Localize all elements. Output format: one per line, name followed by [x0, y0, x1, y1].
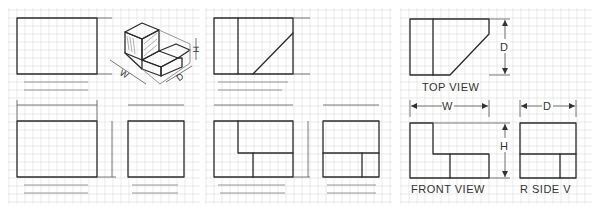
- front-width-dimension: W: [442, 100, 453, 112]
- side-view-partial: [323, 121, 379, 177]
- isometric-pictorial: W D H: [110, 23, 201, 84]
- panel-exercise-1: W D H: [17, 18, 201, 193]
- front-view-label: FRONT VIEW: [411, 183, 485, 195]
- orthographic-projection-sheet: W D H: [0, 0, 592, 211]
- top-depth-dimension: D: [500, 41, 508, 53]
- side-depth-dimension: D: [543, 100, 551, 112]
- iso-depth-label: D: [174, 71, 185, 83]
- front-height-dimension: H: [500, 140, 508, 152]
- iso-height-label: H: [191, 46, 201, 53]
- top-view-shape: [410, 19, 489, 75]
- panel-exercise-2: [214, 18, 379, 193]
- top-view-label: TOP VIEW: [422, 81, 480, 93]
- side-view-label: R SIDE V: [520, 183, 571, 195]
- panel-solution: D TOP VIEW W H FRONT VIEW D R SIDE V: [410, 19, 576, 195]
- side-view-box: [128, 121, 184, 177]
